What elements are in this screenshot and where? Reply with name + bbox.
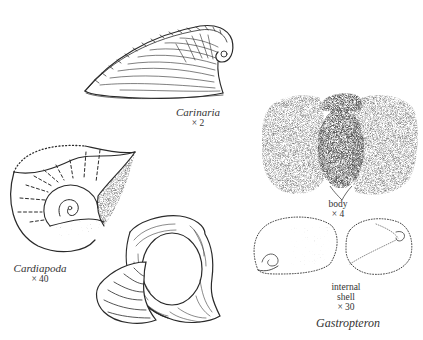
specimen-figure: Carinaria × 2 Cardiapoda × 40 body × 4 i… (0, 0, 423, 340)
shell-magnification: × 30 (316, 303, 376, 313)
gastropteron-internal-shell-drawing (254, 217, 412, 274)
carinaria-genus-name: Carinaria (162, 107, 234, 119)
gastropteron-genus-name: Gastropteron (300, 317, 396, 330)
cardiapoda-magnification: × 40 (4, 275, 76, 285)
cardiapoda-label: Cardiapoda × 40 (4, 263, 76, 285)
carinaria-magnification: × 2 (162, 119, 234, 129)
body-magnification: × 4 (310, 210, 366, 220)
cardiapoda-aperture-drawing (97, 216, 220, 324)
cardiapoda-genus-name: Cardiapoda (4, 263, 76, 275)
carinaria-label: Carinaria × 2 (162, 107, 234, 129)
gastropteron-shell-label: internal shell × 30 (316, 283, 376, 313)
cardiapoda-shell-drawing (11, 145, 135, 251)
gastropteron-body-label: body × 4 (310, 200, 366, 220)
carinaria-shell-drawing (85, 26, 233, 99)
gastropteron-body-drawing (262, 93, 417, 200)
